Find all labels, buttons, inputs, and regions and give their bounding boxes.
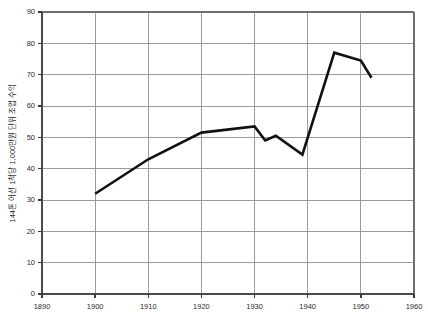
- y-tick-label-50: 50: [27, 133, 35, 142]
- line-chart: 0102030405060708090 18901900191019201930…: [0, 0, 428, 321]
- chart-page: 0102030405060708090 18901900191019201930…: [0, 0, 428, 321]
- y-tick-label-20: 20: [27, 227, 35, 236]
- chart-background: [0, 0, 428, 321]
- x-tick-label-1910: 1910: [140, 302, 157, 311]
- x-tick-label-1920: 1920: [193, 302, 210, 311]
- y-tick-label-70: 70: [27, 70, 35, 79]
- x-tick-label-1900: 1900: [87, 302, 104, 311]
- y-tick-label-0: 0: [31, 289, 35, 298]
- y-tick-label-90: 90: [27, 7, 35, 16]
- y-axis-title: 144톤 어선 1척당 1,000만원 단위 조업 수익: [7, 84, 17, 223]
- x-tick-label-1890: 1890: [34, 302, 51, 311]
- x-tick-label-1930: 1930: [246, 302, 263, 311]
- y-tick-label-40: 40: [27, 164, 35, 173]
- y-tick-label-60: 60: [27, 101, 35, 110]
- y-tick-label-80: 80: [27, 39, 35, 48]
- y-tick-label-30: 30: [27, 195, 35, 204]
- x-tick-label-1960: 1960: [406, 302, 423, 311]
- y-tick-label-10: 10: [27, 258, 35, 267]
- x-tick-label-1950: 1950: [353, 302, 370, 311]
- x-tick-label-1940: 1940: [299, 302, 316, 311]
